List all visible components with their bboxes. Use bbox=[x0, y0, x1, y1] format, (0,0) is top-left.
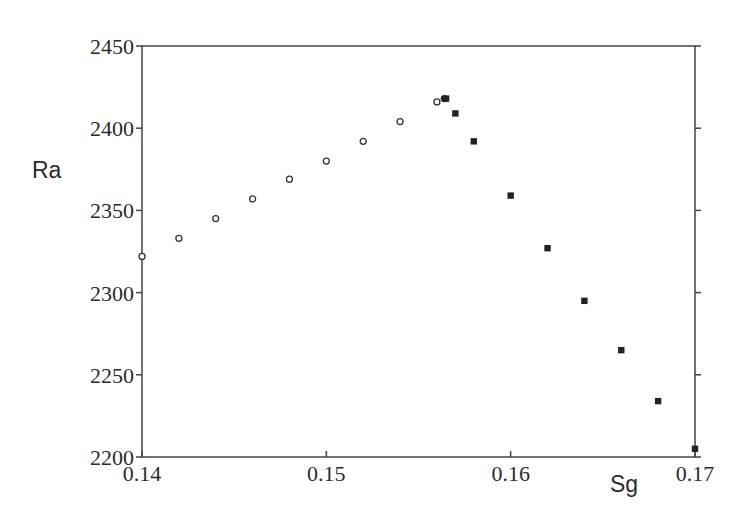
open-circle-marker bbox=[250, 196, 256, 202]
open-circle-marker bbox=[434, 99, 440, 105]
filled-square-marker bbox=[452, 110, 458, 116]
y-tick-label: 2300 bbox=[90, 281, 134, 306]
filled-square-marker bbox=[581, 298, 587, 304]
y-tick-label: 2350 bbox=[90, 198, 134, 223]
filled-square-marker bbox=[507, 192, 513, 198]
filled-square-marker bbox=[544, 245, 550, 251]
x-tick-label: 0.17 bbox=[676, 461, 715, 486]
plot-frame bbox=[142, 46, 695, 457]
open-circle-marker bbox=[360, 138, 366, 144]
open-circle-marker bbox=[176, 235, 182, 241]
data-points bbox=[139, 95, 698, 452]
open-circle-marker bbox=[397, 119, 403, 125]
y-axis: 220022502300235024002450 bbox=[90, 34, 701, 470]
filled-square-marker bbox=[471, 138, 477, 144]
y-axis-label: Ra bbox=[32, 157, 62, 183]
filled-square-marker bbox=[443, 95, 449, 101]
open-circle-marker bbox=[213, 216, 219, 222]
y-tick-label: 2450 bbox=[90, 34, 134, 59]
filled-square-marker bbox=[692, 446, 698, 452]
open-circle-marker bbox=[286, 176, 292, 182]
x-tick-label: 0.15 bbox=[307, 461, 346, 486]
scatter-chart: 220022502300235024002450 0.140.150.160.1… bbox=[0, 0, 754, 526]
y-tick-label: 2250 bbox=[90, 363, 134, 388]
filled-square-marker bbox=[618, 347, 624, 353]
x-tick-label: 0.14 bbox=[123, 461, 162, 486]
open-circle-marker bbox=[139, 253, 145, 259]
x-tick-label: 0.16 bbox=[491, 461, 530, 486]
x-axis-label: Sg bbox=[610, 471, 638, 497]
filled-square-marker bbox=[655, 398, 661, 404]
open-circle-marker bbox=[323, 158, 329, 164]
plot-border bbox=[142, 46, 695, 457]
y-tick-label: 2400 bbox=[90, 116, 134, 141]
